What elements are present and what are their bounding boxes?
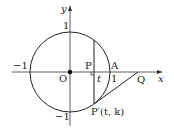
origin-point [68,70,73,75]
label-P-prime: P′(t, k) [91,107,124,117]
y-axis-label: y [61,4,67,14]
label-origin: O [59,74,67,84]
x-axis-label: x [158,74,164,84]
label-Q: Q [137,75,145,85]
tick-x-neg: −1 [13,61,28,71]
label-t: t [97,74,101,84]
tick-x-pos: 1 [111,74,117,84]
tick-y-neg: −1 [55,112,70,122]
label-P: P [85,61,92,71]
y-axis-arrow [68,5,72,11]
tick-y-pos: 1 [63,21,69,31]
label-A: A [111,61,118,71]
